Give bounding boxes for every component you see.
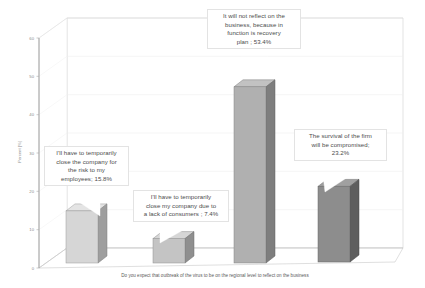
bar-column-3[interactable] [234,80,275,263]
callout-3-line-2: business, because in [211,21,297,30]
bar-column-4[interactable] [318,179,359,262]
y-tick-10: 10 [29,227,34,232]
callout-3-line-3: function is recovery [211,29,297,38]
bar-column-2[interactable] [153,232,194,263]
bar-3-side [266,80,275,263]
data-label-callout-2[interactable]: I'll have to temporarily close my compan… [133,190,229,222]
y-axis-title: Percent [%] [17,141,22,163]
callout-4-line-1: The survival of the firm [298,132,383,141]
callout-1-line-1: I'll have to temporarily [48,149,125,158]
callout-1-line-2: close the company for [48,158,125,167]
y-tick-0: 0 [32,266,35,271]
data-label-callout-3[interactable]: It will not reflect on the business, bec… [207,9,301,49]
y-tick-50: 50 [29,74,34,79]
bar-1-front [66,211,98,263]
callout-4-line-3: 23.2% [298,149,383,158]
x-axis-title: Do you expect that outbreak of the virus… [121,273,309,278]
callout-2-line-2: close my company due to [137,202,225,211]
callout-2-line-3: a lack of consumers ; 7.4% [137,210,225,219]
bar-4-side [350,179,359,262]
callout-3-line-4: plan ; 53.4% [211,38,297,47]
bar-4-front [318,186,350,262]
bar-2-front [153,239,185,263]
callout-1-line-4: employees; 15.8% [48,175,125,184]
callout-1-line-3: the risk to my [48,166,125,175]
callout-4-line-2: will be compromised; [298,141,383,150]
y-tick-30: 30 [29,151,34,156]
callout-2-line-1: I'll have to temporarily [137,193,225,202]
callout-3-line-1: It will not reflect on the [211,12,297,21]
y-tick-40: 40 [29,112,34,117]
data-label-callout-4[interactable]: The survival of the firm will be comprom… [294,129,387,161]
bar-3-front [234,87,266,263]
data-label-callout-1[interactable]: I'll have to temporarily close the compa… [44,146,129,186]
chart-container: 0 10 20 30 40 50 60 Percent [%] [0,0,425,288]
y-tick-20: 20 [29,189,34,194]
y-tick-60: 60 [29,36,34,41]
bar-column-1[interactable] [66,204,107,263]
